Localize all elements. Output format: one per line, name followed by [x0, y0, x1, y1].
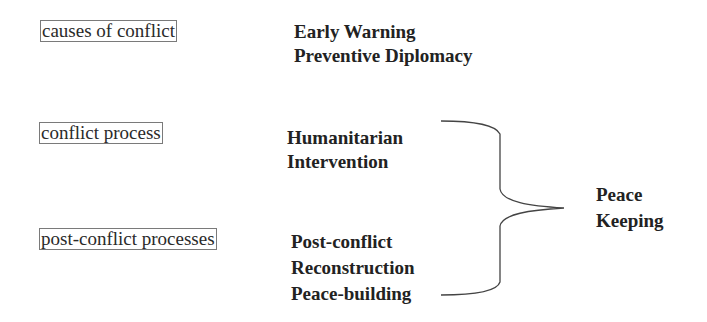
outcome-peace-keeping: Peace Keeping	[596, 182, 664, 234]
curly-brace-icon	[0, 0, 707, 322]
outcome-line: Keeping	[596, 208, 664, 234]
outcome-line: Peace	[596, 182, 664, 208]
